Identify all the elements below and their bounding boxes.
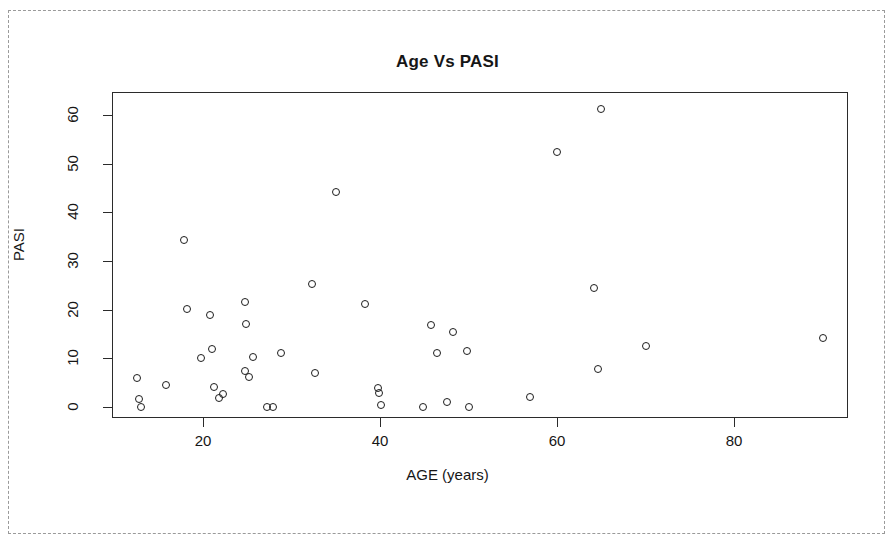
y-axis-tick-label: 50 (64, 143, 81, 183)
x-axis-tick (380, 418, 381, 427)
x-axis-tick-label: 20 (173, 432, 233, 449)
scatter-plot-figure: Age Vs PASI 0102030405060 20406080 PASI … (0, 0, 895, 557)
y-axis-tick-label: 0 (64, 387, 81, 427)
x-axis-tick-label: 80 (704, 432, 764, 449)
y-axis-label: PASI (10, 205, 27, 285)
y-axis-tick-label: 30 (64, 240, 81, 280)
plot-frame (112, 92, 848, 418)
x-axis-tick (203, 418, 204, 427)
y-axis-tick (103, 164, 112, 165)
y-axis-tick (103, 358, 112, 359)
y-axis-tick-label: 40 (64, 192, 81, 232)
x-axis-tick (557, 418, 558, 427)
screenshot-page: Age Vs PASI 0102030405060 20406080 PASI … (0, 0, 895, 557)
chart-title: Age Vs PASI (0, 52, 895, 72)
y-axis-tick (103, 212, 112, 213)
y-axis-tick (103, 310, 112, 311)
x-axis-tick-label: 40 (350, 432, 410, 449)
y-axis-tick (103, 115, 112, 116)
y-axis-tick-label: 60 (64, 94, 81, 134)
x-axis-tick (734, 418, 735, 427)
x-axis-tick-label: 60 (527, 432, 587, 449)
y-axis-tick-label: 10 (64, 338, 81, 378)
y-axis-tick (103, 407, 112, 408)
y-axis-tick-label: 20 (64, 289, 81, 329)
y-axis-tick (103, 261, 112, 262)
x-axis-label: AGE (years) (0, 466, 895, 483)
